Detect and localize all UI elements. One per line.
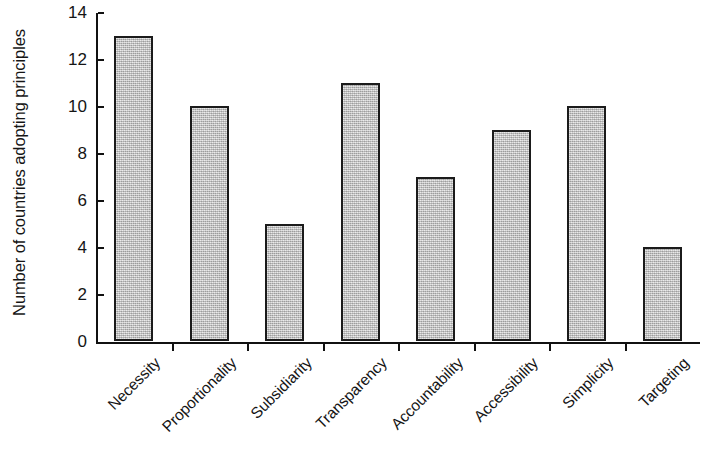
x-tick-mark — [172, 344, 174, 351]
bar — [416, 177, 455, 342]
x-tick-mark — [474, 344, 476, 351]
y-tick-mark — [98, 294, 104, 296]
y-axis-title: Number of countries adopting principles — [4, 0, 34, 345]
x-axis-category-label: Accountability — [387, 354, 466, 433]
x-axis-category-label: Necessity — [105, 354, 165, 414]
x-tick-mark — [323, 344, 325, 351]
y-tick-mark — [98, 12, 104, 14]
x-tick-mark — [549, 344, 551, 351]
y-tick-label: 0 — [78, 332, 87, 352]
bar — [265, 224, 304, 342]
y-tick-mark — [98, 200, 104, 202]
bar — [341, 83, 380, 342]
y-tick-mark — [98, 106, 104, 108]
plot-area: 02468101214 — [96, 13, 700, 343]
y-tick-label: 4 — [78, 238, 87, 258]
y-tick-label: 12 — [68, 50, 87, 70]
bar — [190, 106, 229, 341]
y-tick-label: 8 — [78, 144, 87, 164]
y-tick-label: 14 — [68, 3, 87, 23]
y-tick-mark — [98, 59, 104, 61]
y-tick-label: 2 — [78, 285, 87, 305]
bar — [567, 106, 606, 341]
x-axis-category-label: Targeting — [636, 354, 693, 411]
bar — [492, 130, 531, 342]
x-axis-category-label: Accessibility — [470, 354, 542, 426]
bar — [643, 247, 682, 341]
bar — [114, 36, 153, 342]
y-tick-label: 6 — [78, 191, 87, 211]
x-tick-mark — [398, 344, 400, 351]
y-tick-mark — [98, 153, 104, 155]
bar-chart-figure: Number of countries adopting principles … — [0, 0, 725, 459]
x-axis-category-label: Simplicity — [559, 354, 617, 412]
x-axis-category-label: Transparency — [312, 354, 390, 432]
x-tick-mark — [247, 344, 249, 351]
y-tick-label: 10 — [68, 97, 87, 117]
x-axis-category-label: Proportionality — [158, 354, 240, 436]
x-tick-mark — [625, 344, 627, 351]
x-axis-category-label: Subsidiarity — [247, 354, 316, 423]
y-tick-mark — [98, 247, 104, 249]
